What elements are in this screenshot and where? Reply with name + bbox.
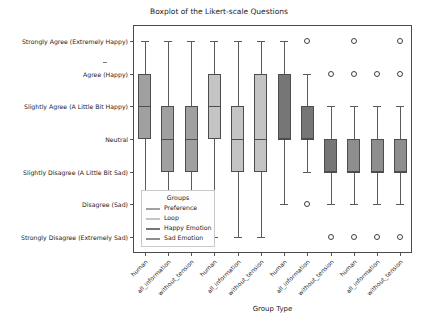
- outlier-marker: [351, 71, 357, 77]
- whisker-cap-lower: [257, 237, 265, 238]
- x-axis-tick-label: all_information: [264, 258, 311, 305]
- median-line: [138, 106, 151, 107]
- y-axis-tick-mark: [130, 74, 133, 75]
- x-axis-tick-mark: [354, 253, 355, 256]
- x-axis-tick-mark: [400, 253, 401, 256]
- whisker-lower: [400, 172, 401, 205]
- outlier-marker: [397, 71, 403, 77]
- x-axis-tick-mark: [238, 253, 239, 256]
- whisker-cap-lower: [280, 204, 288, 205]
- whisker-lower: [261, 172, 262, 237]
- median-line: [278, 139, 291, 140]
- whisker-cap-lower: [373, 204, 381, 205]
- whisker-upper: [377, 106, 378, 139]
- legend-color-swatch: [146, 228, 160, 230]
- legend-color-swatch: [146, 238, 160, 240]
- y-axis-tick-mark: [130, 41, 133, 42]
- y-axis-tick-mark: [130, 106, 133, 107]
- y-axis-tick-label: Strongly Disagree (Extremely Sad): [21, 233, 128, 240]
- median-line: [301, 139, 314, 140]
- y-axis-tick-label: Slightly Agree (A Little Bit Happy): [24, 103, 128, 110]
- whisker-upper: [307, 74, 308, 107]
- box: [347, 139, 360, 172]
- whisker-lower: [284, 139, 285, 204]
- outlier-marker: [304, 38, 310, 44]
- y-axis-tick-mark: [130, 204, 133, 205]
- y-axis-tick-label: Neutral: [105, 136, 128, 143]
- y-axis-tick-mark: [130, 139, 133, 140]
- whisker-cap-upper: [396, 106, 404, 107]
- median-line: [324, 172, 337, 173]
- x-axis-tick-mark: [191, 253, 192, 256]
- whisker-upper: [191, 41, 192, 106]
- x-axis-tick-mark: [307, 253, 308, 256]
- legend: Groups PreferenceLoopHappy EmotionSad Em…: [141, 190, 215, 247]
- whisker-lower: [354, 172, 355, 205]
- chart-title: Boxplot of the Likert-scale Questions: [0, 7, 438, 16]
- box: [371, 139, 384, 172]
- whisker-lower: [331, 172, 332, 205]
- y-axis-tick-mark: [130, 172, 133, 173]
- y-axis-tick-mark: [130, 237, 133, 238]
- whisker-upper: [354, 106, 355, 139]
- whisker-upper: [168, 41, 169, 106]
- box: [278, 74, 291, 139]
- y-axis-tick-label: Disagree (Sad): [82, 201, 128, 208]
- x-axis-tick-mark: [377, 253, 378, 256]
- stray-tick-artifact: [103, 62, 107, 63]
- x-axis-tick-mark: [284, 253, 285, 256]
- whisker-upper: [400, 106, 401, 139]
- x-axis-tick-mark: [331, 253, 332, 256]
- y-axis-tick-label: Slightly Disagree (A Little Bit Sad): [23, 168, 128, 175]
- median-line: [185, 139, 198, 140]
- box: [254, 74, 267, 172]
- legend-title: Groups: [142, 194, 214, 201]
- whisker-cap-lower: [327, 204, 335, 205]
- whisker-cap-upper: [327, 106, 335, 107]
- whisker-upper: [145, 41, 146, 74]
- x-axis-label: Group Type: [133, 305, 412, 313]
- whisker-cap-upper: [187, 41, 195, 42]
- whisker-upper: [261, 41, 262, 74]
- whisker-cap-lower: [234, 237, 242, 238]
- legend-color-swatch: [146, 218, 160, 220]
- whisker-cap-upper: [141, 41, 149, 42]
- x-axis-tick-mark: [168, 253, 169, 256]
- whisker-cap-upper: [280, 41, 288, 42]
- x-axis-tick-label: human: [171, 258, 218, 305]
- median-line: [371, 172, 384, 173]
- whisker-upper: [238, 41, 239, 106]
- outlier-marker: [374, 71, 380, 77]
- whisker-cap-lower: [303, 172, 311, 173]
- whisker-lower: [307, 139, 308, 172]
- legend-color-swatch: [146, 208, 160, 210]
- outlier-marker: [328, 71, 334, 77]
- whisker-cap-lower: [396, 204, 404, 205]
- whisker-upper: [284, 41, 285, 74]
- whisker-cap-upper: [164, 41, 172, 42]
- whisker-cap-upper: [257, 41, 265, 42]
- whisker-cap-lower: [350, 204, 358, 205]
- legend-item-label: Preference: [164, 204, 197, 211]
- x-axis-tick-mark: [214, 253, 215, 256]
- box: [394, 139, 407, 172]
- whisker-cap-upper: [373, 106, 381, 107]
- legend-item-label: Happy Emotion: [164, 224, 212, 231]
- legend-item-label: Sad Emotion: [164, 234, 203, 241]
- whisker-lower: [377, 172, 378, 205]
- x-axis-tick-mark: [261, 253, 262, 256]
- outlier-marker: [374, 234, 380, 240]
- median-line: [231, 139, 244, 140]
- whisker-cap-upper: [303, 74, 311, 75]
- whisker-cap-upper: [234, 41, 242, 42]
- outlier-marker: [351, 38, 357, 44]
- y-axis-tick-label: Strongly Agree (Extremely Happy): [22, 38, 128, 45]
- outlier-marker: [351, 234, 357, 240]
- box: [301, 106, 314, 139]
- x-axis-tick-label: without_tension: [357, 258, 404, 305]
- figure-canvas: Boxplot of the Likert-scale Questions St…: [0, 0, 438, 324]
- median-line: [161, 139, 174, 140]
- whisker-upper: [331, 106, 332, 139]
- whisker-cap-upper: [210, 41, 218, 42]
- outlier-marker: [304, 201, 310, 207]
